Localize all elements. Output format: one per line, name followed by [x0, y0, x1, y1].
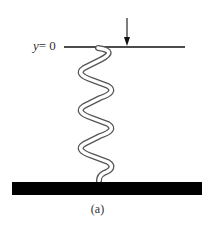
figure-caption: (a): [0, 202, 195, 217]
spring-diagram: [0, 0, 217, 227]
y-zero-label: y= 0: [33, 38, 56, 54]
y-equals-zero: = 0: [39, 38, 56, 53]
spring: [81, 48, 112, 181]
force-arrow-icon: [124, 18, 130, 46]
ground-base: [12, 182, 202, 195]
